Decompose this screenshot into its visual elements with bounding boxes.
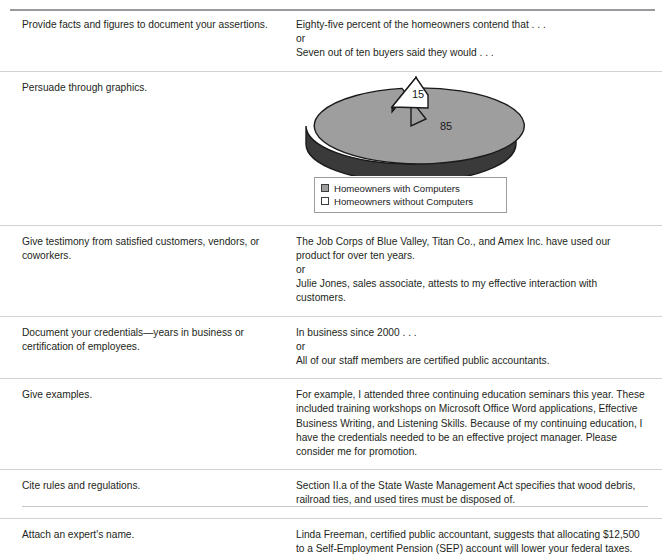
example-line: In business since 2000 . . .: [296, 326, 646, 340]
example-cell: Linda Freeman, certified public accounta…: [296, 519, 662, 558]
table-row: Cite rules and regulations. Section II.a…: [0, 469, 662, 517]
example-cell: Eighty-five percent of the homeowners co…: [296, 9, 662, 71]
table-row: Attach an expert's name. Linda Freeman, …: [0, 518, 662, 558]
example-line: Linda Freeman, certified public accounta…: [296, 528, 646, 556]
chart-legend: Homeowners with Computers Homeowners wit…: [314, 177, 507, 213]
technique-cell: Give testimony from satisfied customers,…: [0, 226, 296, 273]
table-row-chart: Persuade through graphics. 15: [0, 71, 662, 225]
table-bottom-rule: [22, 506, 648, 507]
example-line: For example, I attended three continuing…: [296, 388, 646, 459]
pie-chart-graphic: 15 85: [300, 76, 528, 176]
pie-chart: 15 85 Homeowners with Computers Homeowne…: [300, 76, 528, 217]
legend-item: Homeowners without Computers: [321, 195, 498, 208]
table-row: Provide facts and figures to document yo…: [0, 9, 662, 71]
technique-cell: Provide facts and figures to document yo…: [0, 9, 296, 42]
table-row: Give examples. For example, I attended t…: [0, 378, 662, 469]
legend-swatch-icon: [321, 197, 329, 205]
technique-cell: Cite rules and regulations.: [0, 470, 296, 503]
legend-swatch-icon: [321, 184, 329, 192]
example-line: Julie Jones, sales associate, attests to…: [296, 277, 646, 305]
table-row: Document your credentials—years in busin…: [0, 316, 662, 379]
example-line: Section II.a of the State Waste Manageme…: [296, 479, 646, 507]
legend-label: Homeowners without Computers: [334, 195, 473, 208]
example-cell-chart: 15 85 Homeowners with Computers Homeowne…: [296, 72, 662, 225]
pie-label-15: 15: [412, 88, 424, 100]
example-line: Eighty-five percent of the homeowners co…: [296, 18, 646, 32]
example-cell: The Job Corps of Blue Valley, Titan Co.,…: [296, 226, 662, 316]
example-cell: Section II.a of the State Waste Manageme…: [296, 470, 662, 517]
example-cell: In business since 2000 . . . or All of o…: [296, 317, 662, 379]
pie-label-85: 85: [440, 120, 452, 132]
example-line: or: [296, 32, 646, 46]
cut-off-heading: Persuasive writing techniques: [130, 0, 550, 2]
technique-cell: Persuade through graphics.: [0, 72, 296, 105]
legend-label: Homeowners with Computers: [334, 182, 460, 195]
technique-cell: Give examples.: [0, 379, 296, 412]
technique-cell: Document your credentials—years in busin…: [0, 317, 296, 364]
techniques-table: Provide facts and figures to document yo…: [0, 9, 662, 558]
example-line: All of our staff members are certified p…: [296, 354, 646, 368]
legend-item: Homeowners with Computers: [321, 182, 498, 195]
example-line: The Job Corps of Blue Valley, Titan Co.,…: [296, 235, 646, 263]
example-line: or: [296, 340, 646, 354]
technique-cell: Attach an expert's name.: [0, 519, 296, 552]
example-cell: For example, I attended three continuing…: [296, 379, 662, 469]
table-row: Give testimony from satisfied customers,…: [0, 225, 662, 316]
example-line: Seven out of ten buyers said they would …: [296, 46, 646, 60]
example-line: or: [296, 263, 646, 277]
